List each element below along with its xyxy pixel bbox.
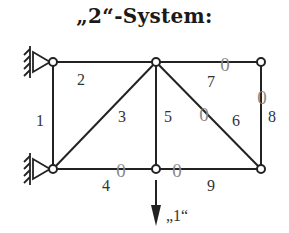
member-3 xyxy=(53,62,156,169)
member-label-4: 4 xyxy=(102,177,110,194)
zero-force-marker-7: 0 xyxy=(220,54,230,75)
member-label-2: 2 xyxy=(77,71,85,88)
zero-force-marker-4: 0 xyxy=(116,160,126,181)
joint-node-B xyxy=(49,165,57,173)
member-label-6: 6 xyxy=(232,112,240,129)
member-label-3: 3 xyxy=(118,108,126,125)
load-label: „1“ xyxy=(166,207,188,224)
zero-force-marker-9: 0 xyxy=(172,160,182,181)
load-arrow: „1“ xyxy=(151,180,188,226)
member-label-1: 1 xyxy=(36,112,44,129)
member-label-8: 8 xyxy=(268,108,276,125)
member-label-9: 9 xyxy=(207,177,215,194)
zero-force-marker-8: 0 xyxy=(257,87,267,108)
truss-diagram: 12340560708090 „1“ xyxy=(0,0,289,233)
pinned-support-bottom xyxy=(24,153,50,185)
joint-node-F xyxy=(257,165,265,173)
pinned-support-top xyxy=(24,46,50,78)
zero-force-marker-6: 0 xyxy=(199,104,209,125)
member-label-5: 5 xyxy=(164,108,172,125)
joint-node-A xyxy=(49,58,57,66)
joint-node-E xyxy=(257,58,265,66)
joint-node-D xyxy=(152,165,160,173)
joint-node-C xyxy=(152,58,160,66)
member-label-7: 7 xyxy=(207,73,215,90)
